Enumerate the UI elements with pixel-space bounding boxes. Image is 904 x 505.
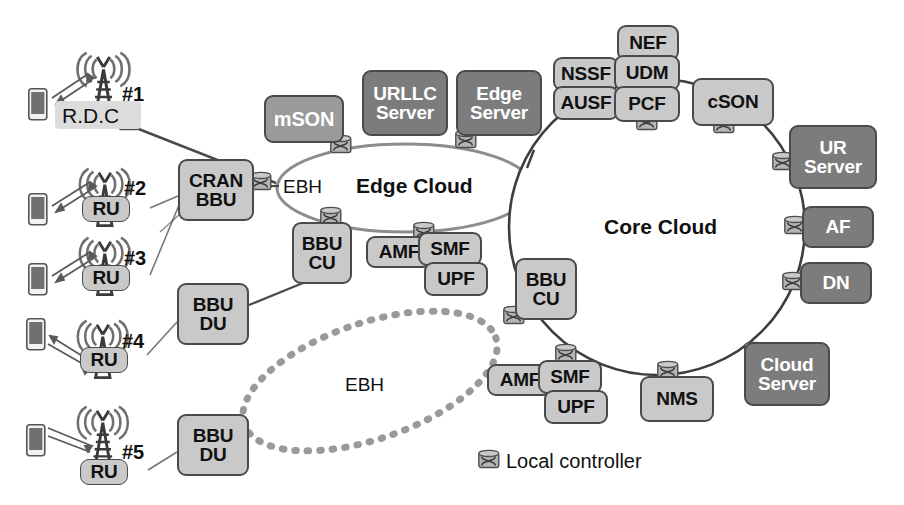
site-3-ru-box: RU (82, 265, 130, 291)
node-upf-2-line-0: UPF (557, 397, 594, 416)
site-1-tag: #1 (122, 83, 144, 106)
link-site5-to-bbudu2 (148, 452, 177, 470)
node-cloud-server-line-1: Server (758, 374, 816, 393)
site-2-tag: #2 (124, 177, 146, 200)
node-smf-2[interactable]: SMF (538, 360, 602, 394)
node-bbu-du-1-line-1: DU (199, 314, 226, 333)
core-cloud-label: Core Cloud (604, 215, 717, 239)
node-mson[interactable]: mSON (264, 95, 344, 143)
link-cran-down (160, 214, 180, 232)
node-ur-server-line-0: UR (819, 138, 846, 157)
site-2-phone-icon (29, 194, 47, 225)
node-bbu-du-2-line-0: BBU (193, 426, 234, 445)
node-smf-2-line-0: SMF (550, 367, 590, 386)
node-bbu-cu-2-line-1: CU (532, 289, 559, 308)
node-cloud-server-line-0: Cloud (761, 355, 814, 374)
site-5-air-link (48, 428, 92, 452)
node-urllc-server-line-0: URLLC (373, 84, 436, 103)
node-cran-bbu-line-1: BBU (196, 190, 237, 209)
node-dn-line-0: DN (822, 273, 849, 292)
site-3-phone-icon (29, 264, 47, 295)
site-5-ru-label: RU (90, 462, 117, 481)
link-site3-to-cran (150, 205, 179, 275)
ebh-edge-label: EBH (283, 176, 322, 198)
node-bbu-du-2-line-1: DU (199, 445, 226, 464)
node-dn[interactable]: DN (800, 262, 872, 304)
node-nms-line-0: NMS (656, 389, 698, 408)
node-edge-server-line-0: Edge (476, 84, 522, 103)
node-bbu-cu-1[interactable]: BBUCU (292, 222, 352, 284)
node-amf-1-line-0: AMF (379, 242, 420, 261)
site-1-phone-icon (29, 89, 47, 120)
ebh-dotted-label: EBH (345, 374, 384, 396)
site-1-ru-label: R.D.C (62, 104, 119, 128)
node-urllc-server[interactable]: URLLCServer (362, 70, 448, 136)
edge-cloud-label: Edge Cloud (356, 174, 473, 198)
node-ausf[interactable]: AUSF (553, 86, 619, 120)
node-urllc-server-line-1: Server (376, 103, 434, 122)
node-bbu-du-1-line-0: BBU (193, 295, 234, 314)
legend-label: Local controller (506, 450, 642, 473)
node-ur-server[interactable]: URServer (789, 125, 877, 189)
node-mson-line-0: mSON (274, 109, 334, 129)
node-edge-server[interactable]: EdgeServer (456, 70, 542, 136)
site-4-ru-label: RU (90, 350, 117, 369)
node-upf-1-line-0: UPF (437, 269, 474, 288)
site-4-tag: #4 (122, 330, 144, 353)
site-4-ru-box: RU (80, 347, 128, 373)
node-cran-bbu[interactable]: CRANBBU (178, 159, 254, 221)
node-ausf-line-0: AUSF (561, 93, 612, 112)
site-5-phone-icon (27, 425, 45, 456)
router-icon-smf2[interactable] (556, 344, 576, 361)
site-3-ru-label: RU (92, 268, 119, 287)
node-upf-2[interactable]: UPF (544, 390, 608, 424)
node-udm-line-0: UDM (626, 63, 669, 82)
node-amf-2-line-0: AMF (500, 370, 541, 389)
node-smf-1-line-0: SMF (430, 239, 470, 258)
node-cloud-server[interactable]: CloudServer (744, 342, 830, 406)
node-bbu-du-2[interactable]: BBUDU (177, 414, 249, 476)
link-site2-to-cran (150, 196, 178, 208)
node-af[interactable]: AF (802, 206, 874, 248)
site-5-tag: #5 (122, 441, 144, 464)
node-bbu-cu-2[interactable]: BBUCU (515, 258, 577, 320)
link-site4-to-bbudu1 (147, 322, 177, 355)
site-4-phone-icon (27, 319, 45, 350)
node-cson[interactable]: cSON (692, 78, 774, 126)
link-bbudu1-to-bbucu1 (249, 283, 303, 305)
node-nssf-line-0: NSSF (561, 64, 611, 83)
node-cson-line-0: cSON (708, 92, 759, 111)
site-5-ru-box: RU (80, 459, 128, 485)
node-bbu-du-1[interactable]: BBUDU (177, 283, 249, 345)
node-upf-1[interactable]: UPF (424, 262, 488, 296)
node-bbu-cu-1-line-0: BBU (302, 234, 343, 253)
node-nef-line-0: NEF (629, 33, 666, 52)
node-smf-1[interactable]: SMF (418, 232, 482, 266)
node-af-line-0: AF (826, 217, 851, 236)
node-edge-server-line-1: Server (470, 103, 528, 122)
node-cran-bbu-line-0: CRAN (189, 171, 243, 190)
site-2-ru-label: RU (92, 199, 119, 218)
node-bbu-cu-2-line-0: BBU (526, 270, 567, 289)
node-pcf[interactable]: PCF (614, 86, 680, 122)
node-nms[interactable]: NMS (640, 376, 714, 422)
site-3-tag: #3 (124, 247, 146, 270)
site-2-ru-box: RU (82, 196, 130, 222)
node-ur-server-line-1: Server (804, 157, 862, 176)
site-5-tower-icon (78, 407, 128, 464)
network-diagram: R.D.C RU RU RU RU #1 #2 #3 #4 #5 Edge Cl… (0, 0, 904, 505)
node-pcf-line-0: PCF (628, 94, 665, 113)
site-1-air-link (52, 74, 94, 104)
node-bbu-cu-1-line-1: CU (308, 253, 335, 272)
router-icon-legend (479, 450, 499, 467)
